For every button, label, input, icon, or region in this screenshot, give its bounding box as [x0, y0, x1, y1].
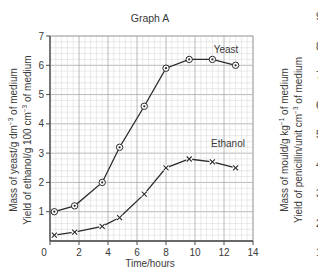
graph-b-y-tick-label: 5: [316, 129, 318, 140]
x-axis-label: Time/hours: [125, 258, 175, 269]
data-point-marker: [72, 229, 78, 235]
data-point-marker: [209, 159, 215, 165]
data-point-marker: [51, 232, 57, 238]
x-tick-label: 8: [163, 247, 169, 258]
graph-b-y-tick-label: 8: [316, 41, 318, 52]
y-tick-label: 2: [38, 177, 44, 188]
data-point-marker: [141, 191, 147, 197]
y-axis-label-ethanol: Yield of ethanol/g 100 cm−3 of medium: [21, 55, 33, 224]
graph-b-y-ticks: 987654321: [316, 11, 318, 258]
y-tick-label: 5: [38, 89, 44, 100]
y-tick-label: 6: [38, 60, 44, 71]
data-point-marker: [117, 215, 123, 221]
y-tick-label: 1: [38, 206, 44, 217]
data-point-marker: [163, 165, 169, 171]
graph-b-y-tick-label: 4: [316, 159, 318, 170]
y-axis-label-yeast: Mass of yeast/g dm−3 of medium: [7, 68, 19, 212]
data-point-marker: [99, 223, 105, 229]
graph-b-y-axis-label-mould: Mass of mould/g kg−1 of medium: [278, 68, 290, 212]
graph-b-y-tick-label: 3: [316, 188, 318, 199]
data-point-marker: [186, 156, 192, 162]
x-tick-label: 0: [41, 247, 47, 258]
graph-a-chart: 123456702468101214 Graph A Yeast Ethanol…: [0, 0, 318, 272]
graph-b-y-tick-label: 2: [316, 218, 318, 229]
y-tick-label: 3: [38, 148, 44, 159]
x-tick-label: 10: [189, 247, 201, 258]
graph-b-y-axis-label-penicillin: Yield of penicillin/unit cm−3 of medium: [292, 57, 304, 223]
x-tick-label: 2: [76, 247, 82, 258]
graph-b-y-tick-label: 1: [316, 247, 318, 258]
series-label-yeast: Yeast: [214, 44, 239, 55]
series-label-ethanol: Ethanol: [211, 138, 245, 149]
y-tick-label: 7: [38, 31, 44, 42]
x-tick-label: 4: [105, 247, 111, 258]
x-tick-label: 14: [247, 247, 259, 258]
graph-b-y-tick-label: 7: [316, 70, 318, 81]
graph-b-y-tick-label: 9: [316, 11, 318, 22]
graph-b-y-tick-label: 6: [316, 100, 318, 111]
x-tick-label: 12: [218, 247, 230, 258]
chart-title: Graph A: [131, 12, 170, 24]
x-tick-label: 6: [134, 247, 140, 258]
data-point-marker: [233, 165, 239, 171]
y-tick-label: 4: [38, 118, 44, 129]
